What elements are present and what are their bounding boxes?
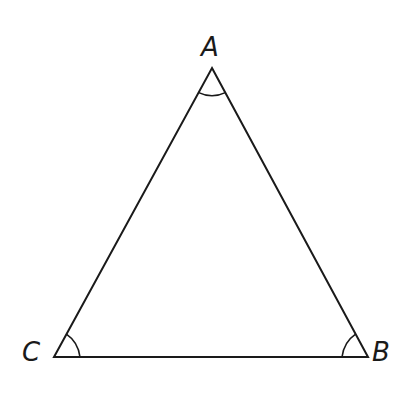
vertex-label-c: C xyxy=(22,337,41,367)
angle-arc-a xyxy=(199,93,226,96)
vertex-label-a: A xyxy=(199,32,219,62)
vertex-label-b: B xyxy=(372,337,390,367)
diagram-canvas: A B C xyxy=(0,0,396,396)
angle-arc-c xyxy=(66,334,80,357)
angle-arc-b xyxy=(342,334,356,357)
triangle-abc xyxy=(54,68,368,357)
triangle-diagram: A B C xyxy=(0,0,396,396)
